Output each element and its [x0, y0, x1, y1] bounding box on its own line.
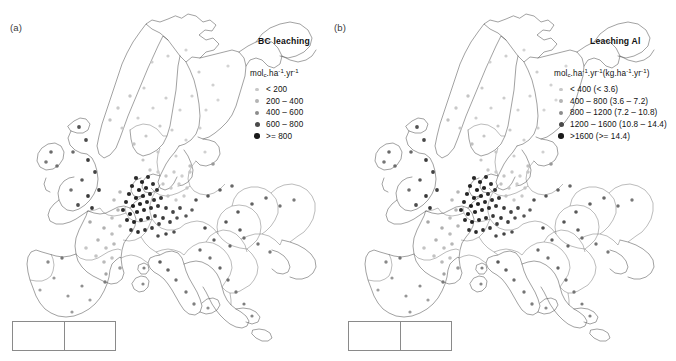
legend-item: 200 – 400	[250, 96, 310, 108]
legend-b-units-paren-yr: .yr	[632, 69, 641, 78]
inset-box-b	[348, 321, 452, 351]
legend-item: 400 – 800 (3.6 – 7.2)	[554, 96, 667, 108]
legend-item-label: 400 – 800 (3.6 – 7.2)	[568, 97, 648, 106]
legend-b-units-yr: .yr	[588, 69, 597, 78]
legend-dot-icon	[554, 133, 568, 139]
legend-item: >= 800	[250, 130, 310, 142]
panel-a: (a)	[0, 0, 338, 361]
legend-item-label: < 200	[264, 85, 287, 94]
legend-item-label: 400 – 600	[264, 108, 303, 117]
legend-dot-icon	[554, 88, 568, 91]
inset-divider-b	[400, 322, 401, 350]
legend-b-rows: < 400 (< 3.6) 400 – 800 (3.6 – 7.2) 800 …	[554, 84, 667, 142]
legend-item-label: 800 – 1200 (7.2 – 10.8)	[568, 108, 657, 117]
legend-dot-icon	[554, 99, 568, 103]
legend-item-label: >1600 (>= 14.4)	[568, 132, 630, 141]
legend-b-units-ha: .ha	[571, 69, 583, 78]
legend-b-units: molc.ha-1.yr-1(kg.ha-1.yr-1)	[554, 68, 667, 78]
legend-a-rows: < 200 200 – 400 400 – 600 600 – 800 >= 8…	[250, 84, 310, 142]
legend-dot-icon	[250, 122, 264, 127]
legend-dot-icon	[250, 88, 264, 91]
legend-a-units-sup2: -1	[293, 68, 299, 74]
legend-b-units-mol: mol	[554, 69, 568, 78]
legend-item: < 400 (< 3.6)	[554, 84, 667, 96]
legend-b-units-paren-close: )	[647, 69, 650, 78]
legend-item: 800 – 1200 (7.2 – 10.8)	[554, 107, 667, 119]
legend-item-label: < 400 (< 3.6)	[568, 85, 618, 94]
figure-root: (a)	[0, 0, 676, 361]
legend-item-label: >= 800	[264, 132, 292, 141]
legend-a-units-yr: .yr	[284, 69, 293, 78]
legend-a: BC leaching molc.ha-1.yr-1 < 200 200 – 4…	[250, 36, 310, 142]
legend-b: Leaching Al molc.ha-1.yr-1(kg.ha-1.yr-1)…	[554, 36, 667, 142]
panel-b: (b)	[338, 0, 676, 361]
legend-a-units-mol: mol	[250, 69, 264, 78]
inset-divider-a	[64, 322, 65, 350]
legend-item-label: 1200 – 1600 (10.8 – 14.4)	[568, 120, 667, 129]
legend-item: 600 – 800	[250, 119, 310, 131]
legend-dot-icon	[250, 99, 264, 103]
legend-item: >1600 (>= 14.4)	[554, 130, 667, 142]
legend-item: 1200 – 1600 (10.8 – 14.4)	[554, 119, 667, 131]
legend-b-units-paren-open: (kg.ha	[603, 69, 626, 78]
legend-dot-icon	[250, 133, 264, 139]
legend-item: < 200	[250, 84, 310, 96]
legend-item-label: 600 – 800	[264, 120, 303, 129]
legend-dot-icon	[554, 122, 568, 127]
legend-a-units: molc.ha-1.yr-1	[250, 68, 310, 78]
legend-b-title: Leaching Al	[590, 36, 667, 46]
inset-box-a	[12, 321, 116, 351]
legend-item-label: 200 – 400	[264, 97, 303, 106]
legend-dot-icon	[250, 111, 264, 115]
legend-item: 400 – 600	[250, 107, 310, 119]
legend-dot-icon	[554, 111, 568, 115]
legend-a-units-ha: .ha	[267, 69, 279, 78]
legend-a-title: BC leaching	[258, 36, 310, 46]
